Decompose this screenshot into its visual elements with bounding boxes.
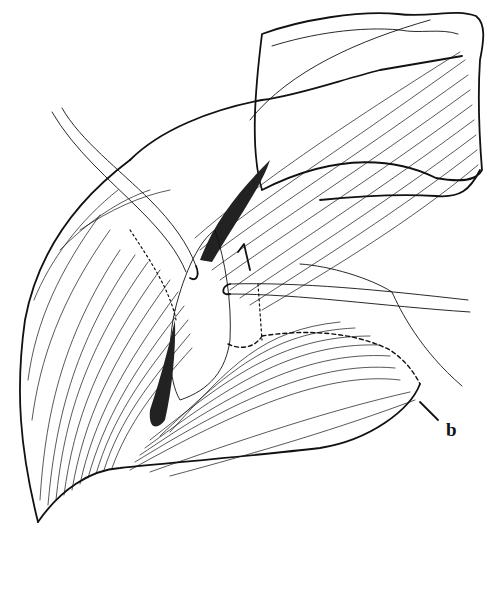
deep-structure <box>130 230 262 427</box>
figure-label-b: b <box>446 420 457 439</box>
leader-line-b <box>300 264 462 420</box>
upper-flap <box>250 13 483 190</box>
retractor-right[interactable] <box>223 244 470 312</box>
anatomical-illustration <box>0 0 501 611</box>
fiber-hatching-left <box>28 190 192 505</box>
